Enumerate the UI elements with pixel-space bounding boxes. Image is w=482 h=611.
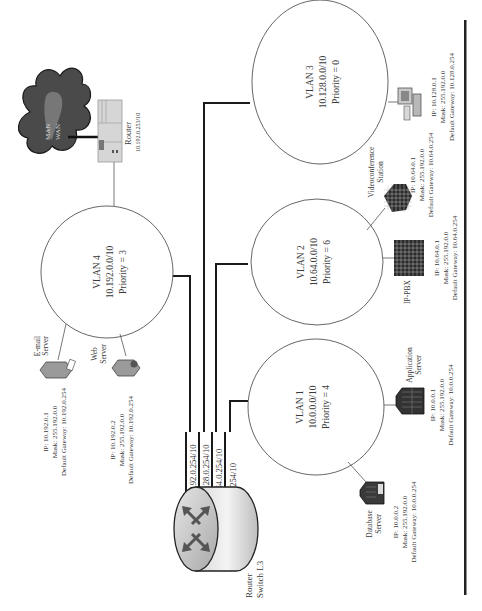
link-web <box>120 334 126 356</box>
email-mask: Mask: 255.192.0.0 <box>51 405 59 458</box>
videoconf-ip: IP: 10.64.0.1 <box>409 156 417 193</box>
vlan1-priority: Priority = 4 <box>321 385 331 429</box>
vlan2-subnet: 10.64.0.0/10 <box>309 238 319 286</box>
app-name-1: Application <box>405 347 414 383</box>
link-email <box>58 324 66 360</box>
device-application-server: Application Server IP: 10.0.0.1 Mask: 25… <box>396 347 455 445</box>
device-ip-pbx: IP-PBX IP: 10.64.0.1 Mask: 255.192.0.0 D… <box>394 215 459 304</box>
email-ip: IP: 10.192.0.1 <box>42 412 50 452</box>
device-videoconference: Videoconference Station IP: 10.64.0.1 Ma… <box>367 132 435 217</box>
cloud-label-wan: WAN <box>54 124 62 140</box>
email-server-icon <box>40 362 72 378</box>
edge-router-ip: 10.192.0.253/10 <box>135 113 141 152</box>
device-web-server: Web Server IP: 10.192.0.2 Mask: 255.192.… <box>90 344 140 484</box>
db-ip: IP: 10.0.0.2 <box>392 505 400 538</box>
ippbx-name: IP-PBX <box>403 280 412 304</box>
trunk-lines <box>171 103 250 487</box>
device-database-server: Database Server IP: 10.0.0.2 Mask: 255.1… <box>360 481 418 563</box>
link-db <box>348 462 366 482</box>
edge-router-label: Router <box>123 122 133 145</box>
vlan3-name: VLAN 3 <box>305 65 315 99</box>
ippbx-gateway: Default Gateway: 10.64.0.254 <box>451 215 459 300</box>
pc-ip: IP: 10.128.0.1 <box>430 77 438 117</box>
vlan1-circle: VLAN 1 10.0.0.0/10 Priority = 4 <box>248 339 384 475</box>
web-gateway: Default Gateway: 10.192.0.254 <box>127 395 135 484</box>
vlan2-name: VLAN 2 <box>296 245 306 279</box>
web-ip: IP: 10.192.0.2 <box>109 420 117 460</box>
network-diagram: 10.192.0.254/10 10.128.0.254/10 10.64.0.… <box>0 0 482 611</box>
man-wan-cloud: MAN WAN <box>18 68 102 153</box>
pc-mask: Mask: 255.192.0.0 <box>439 70 447 123</box>
vlan3-circle: VLAN 3 10.128.0.0/10 Priority = 0 <box>252 0 388 164</box>
vlan2-priority: Priority = 6 <box>322 240 332 284</box>
ip-pbx-icon <box>394 240 424 276</box>
vlan3-subnet: 10.128.0.0/10 <box>318 55 328 108</box>
ippbx-ip: IP: 10.64.0.1 <box>433 239 441 276</box>
db-name-1: Database <box>365 510 374 538</box>
ippbx-mask: Mask: 255.192.0.0 <box>442 231 450 284</box>
vlan3-priority: Priority = 0 <box>331 60 341 104</box>
core-label-line1: Router <box>244 574 254 599</box>
app-mask: Mask: 255.192.0.0 <box>438 378 446 431</box>
videoconf-gateway: Default Gateway: 10.64.0.254 <box>427 132 435 217</box>
application-server-icon <box>396 388 424 414</box>
database-server-icon <box>360 482 384 504</box>
vlan2-circle: VLAN 2 10.64.0.0/10 Priority = 6 <box>251 199 383 325</box>
link-videoconf <box>367 208 385 230</box>
app-name-2: Server <box>414 355 423 375</box>
vlan4-circle: VLAN 4 10.192.0.0/10 Priority = 3 <box>41 206 173 338</box>
device-pc: IP: 10.128.0.1 Mask: 255.192.0.0 Default… <box>398 52 456 141</box>
core-router-switch: Router Switch L3 <box>174 487 265 598</box>
vlan1-name: VLAN 1 <box>295 390 305 424</box>
core-label-line2: Switch L3 <box>255 560 265 598</box>
app-ip: IP: 10.0.0.1 <box>429 388 437 421</box>
computer-icon <box>398 88 421 120</box>
vlan1-subnet: 10.0.0.0/10 <box>308 385 318 428</box>
vlan4-subnet: 10.192.0.0/10 <box>105 245 115 298</box>
videoconf-name-1: Videoconference <box>367 146 376 197</box>
db-name-2: Server <box>374 514 383 534</box>
page-border-rule <box>464 20 467 595</box>
edge-router: Router 10.192.0.253/10 <box>98 100 141 162</box>
db-mask: Mask: 255.192.0.0 <box>401 495 409 548</box>
videoconf-name-2: Station <box>376 161 385 183</box>
vlan4-priority: Priority = 3 <box>118 250 128 294</box>
web-name-1: Web <box>90 347 99 361</box>
db-gateway: Default Gateway: 10.0.0.254 <box>410 481 418 563</box>
link-vlan3 <box>204 103 250 487</box>
vlan4-name: VLAN 4 <box>92 255 102 289</box>
email-name-2: Server <box>41 336 50 356</box>
device-email-server: E-mail Server IP: 10.192.0.1 Mask: 255.1… <box>33 336 76 476</box>
videoconf-mask: Mask: 255.192.0.0 <box>418 148 426 201</box>
cloud-label-man: MAN <box>44 124 52 140</box>
web-name-2: Server <box>99 344 108 364</box>
edge-router-icon <box>98 100 122 162</box>
app-gateway: Default Gateway: 10.0.0.254 <box>447 364 455 446</box>
web-mask: Mask: 255.192.0.0 <box>118 413 126 466</box>
email-gateway: Default Gateway: 10.192.0.254 <box>60 387 68 476</box>
pc-gateway: Default Gateway: 10.128.0.254 <box>448 52 456 141</box>
videoconference-icon <box>384 184 412 212</box>
